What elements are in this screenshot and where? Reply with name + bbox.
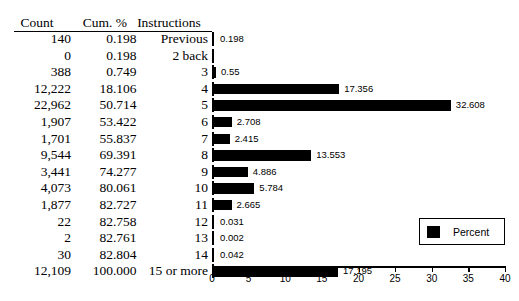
cell-instructions: Previous	[145, 31, 212, 48]
category-axis-tick	[212, 49, 214, 63]
bar	[212, 167, 248, 178]
cell-cumulative-percent: 100.000	[77, 263, 145, 280]
x-axis-tick	[322, 266, 323, 272]
bar	[212, 34, 213, 45]
table-row: 1400.198Previous	[0, 31, 212, 48]
bar-value-label: 0.002	[220, 231, 244, 244]
bar-row: 4.886	[212, 164, 505, 181]
figure-container: Count Cum. % Instructions 1400.198Previo…	[0, 0, 519, 301]
x-axis-tick	[212, 266, 213, 272]
cell-instructions: 4	[145, 81, 212, 98]
bar-row: 2.708	[212, 114, 505, 131]
cell-cumulative-percent: 82.758	[77, 214, 145, 231]
cell-count: 1,907	[0, 114, 77, 131]
x-axis-tick-label: 10	[280, 273, 291, 284]
x-axis-tick	[285, 266, 286, 272]
cell-instructions: 11	[145, 197, 212, 214]
cell-cumulative-percent: 0.198	[77, 48, 145, 65]
x-axis-tick	[468, 266, 469, 272]
cell-cumulative-percent: 0.198	[77, 31, 145, 48]
table-row: 9,54469.3918	[0, 147, 212, 164]
cell-count: 3,441	[0, 164, 77, 181]
cell-instructions: 10	[145, 180, 212, 197]
bar-row: 2.665	[212, 197, 505, 214]
cell-instructions: 12	[145, 214, 212, 231]
x-axis-tick-label: 40	[499, 273, 510, 284]
table-header-row: Count Cum. % Instructions	[0, 14, 212, 31]
cell-instructions: 6	[145, 114, 212, 131]
cell-count: 22	[0, 214, 77, 231]
table-row: 3880.7493	[0, 64, 212, 81]
x-axis-tick-label: 5	[246, 273, 252, 284]
bar-row: 5.784	[212, 180, 505, 197]
bar-value-label: 5.784	[259, 181, 283, 194]
x-axis-tick	[395, 266, 396, 272]
cell-cumulative-percent: 18.106	[77, 81, 145, 98]
cell-count: 12,109	[0, 263, 77, 280]
table-row: 4,07380.06110	[0, 180, 212, 197]
cell-instructions: 7	[145, 131, 212, 148]
bar-row: 0.042	[212, 247, 505, 264]
table-row: 22,96250.7145	[0, 97, 212, 114]
cell-instructions: 3	[145, 64, 212, 81]
bar-row: 32.608	[212, 97, 505, 114]
bar	[212, 100, 451, 111]
cell-count: 9,544	[0, 147, 77, 164]
cell-instructions: 2 back	[145, 48, 212, 65]
cell-cumulative-percent: 50.714	[77, 97, 145, 114]
bar-row: 0.198	[212, 31, 505, 48]
x-axis-tick-label: 25	[390, 273, 401, 284]
cell-cumulative-percent: 69.391	[77, 147, 145, 164]
bar-value-label: 32.608	[456, 98, 485, 111]
column-header-count: Count	[0, 14, 74, 31]
column-header-cumulative-percent: Cum. %	[74, 14, 136, 31]
cell-count: 2	[0, 230, 77, 247]
bar-value-label: 0.031	[220, 215, 244, 228]
bar-row: 0.55	[212, 64, 505, 81]
bar-value-label: 4.886	[253, 165, 277, 178]
category-axis-tick	[212, 248, 214, 262]
bar	[212, 134, 230, 145]
bar-row: 2.415	[212, 131, 505, 148]
table-header-rule	[14, 31, 212, 32]
x-axis-tick-label: 35	[463, 273, 474, 284]
bar-value-label: 2.708	[237, 115, 261, 128]
statistics-table: Count Cum. % Instructions 1400.198Previo…	[0, 14, 212, 280]
cell-cumulative-percent: 55.837	[77, 131, 145, 148]
x-axis-tick	[505, 266, 506, 272]
table-row: 12,22218.1064	[0, 81, 212, 98]
cell-count: 140	[0, 31, 77, 48]
bar	[212, 84, 339, 95]
x-axis-tick	[432, 266, 433, 272]
table-row: 3082.80414	[0, 247, 212, 264]
cell-count: 22,962	[0, 97, 77, 114]
x-axis-tick	[359, 266, 360, 272]
table-row: 1,87782.72711	[0, 197, 212, 214]
cell-instructions: 9	[145, 164, 212, 181]
x-axis-tick-label: 30	[426, 273, 437, 284]
cell-count: 12,222	[0, 81, 77, 98]
cell-count: 388	[0, 64, 77, 81]
bar-value-label: 0.55	[221, 65, 240, 78]
bar-value-label: 17.356	[344, 82, 373, 95]
bar-value-label: 0.198	[220, 32, 244, 45]
category-axis-tick	[212, 215, 214, 229]
bar	[212, 200, 232, 211]
legend-label-percent: Percent	[453, 226, 489, 238]
table-row: 282.76113	[0, 230, 212, 247]
category-axis-tick	[212, 231, 214, 245]
cell-cumulative-percent: 82.761	[77, 230, 145, 247]
x-axis-tick-label: 0	[209, 273, 215, 284]
cell-count: 1,701	[0, 131, 77, 148]
bar-value-label: 2.415	[235, 132, 259, 145]
bar	[212, 117, 232, 128]
bar-row: 13.553	[212, 147, 505, 164]
bar-row: 17.356	[212, 81, 505, 98]
x-axis-tick	[249, 266, 250, 272]
table-body: 1400.198Previous00.1982 back3880.749312,…	[0, 31, 212, 280]
bar	[212, 183, 254, 194]
table-row: 1,90753.4226	[0, 114, 212, 131]
bar-value-label: 13.553	[316, 148, 345, 161]
x-axis-tick-label: 15	[316, 273, 327, 284]
bar-chart: 0.1980.5517.35632.6082.7082.41513.5534.8…	[212, 14, 519, 301]
